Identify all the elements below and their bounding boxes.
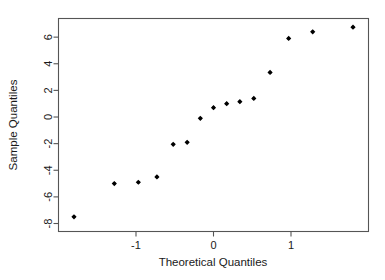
x-tick-label: 0: [210, 239, 216, 251]
y-tick-label: 2: [43, 87, 55, 93]
y-tick-label: 0: [43, 114, 55, 120]
y-tick-label: 4: [43, 61, 55, 67]
y-tick-label: -8: [43, 219, 55, 229]
qq-plot-figure: 6420-2-4-6-8 -101 Theoretical Quantiles …: [0, 0, 385, 280]
x-tick-label: -1: [131, 239, 141, 251]
x-tick-label: 1: [288, 239, 294, 251]
x-axis-title: Theoretical Quantiles: [159, 256, 268, 268]
plot-canvas: 6420-2-4-6-8 -101 Theoretical Quantiles …: [0, 0, 385, 280]
y-axis-title: Sample Quantiles: [7, 79, 19, 170]
y-tick-label: 6: [43, 34, 55, 40]
y-tick-label: -6: [43, 192, 55, 202]
figure-background: [0, 0, 385, 280]
y-tick-label: -4: [43, 165, 55, 175]
y-tick-label: -2: [43, 139, 55, 149]
